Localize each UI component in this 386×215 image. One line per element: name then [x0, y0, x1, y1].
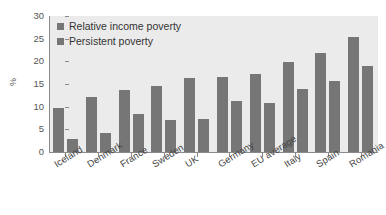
y-axis-tick-label: 0	[20, 147, 44, 157]
bar-iceland-series-0	[53, 108, 64, 152]
bar-romania-series-1	[362, 66, 373, 152]
bar-group	[345, 16, 378, 152]
bar-chart-figure: % 051015202530 IcelandDenmarkFranceSwede…	[0, 0, 386, 215]
bar-spain-series-0	[315, 53, 326, 152]
legend-item: Persistent poverty	[57, 34, 181, 48]
bar-group	[214, 16, 247, 152]
y-axis-tick-labels: 051015202530	[20, 10, 44, 158]
bar-group	[280, 16, 313, 152]
bar-spain-series-1	[329, 81, 340, 152]
y-axis-tick-label: 5	[20, 124, 44, 134]
y-axis-tick-label: 30	[20, 11, 44, 21]
bar-germany-series-0	[217, 77, 228, 152]
chart-legend: Relative income povertyPersistent povert…	[57, 19, 181, 49]
bar-denmark-series-0	[86, 97, 97, 152]
bar-group	[181, 16, 214, 152]
bar-uk-series-0	[184, 78, 195, 152]
x-axis-label-uk: UK	[183, 153, 200, 169]
bar-romania-series-0	[348, 37, 359, 152]
y-axis-title: %	[8, 75, 18, 89]
legend-item: Relative income poverty	[57, 19, 181, 33]
bar-group	[312, 16, 345, 152]
x-axis-label-italy: Italy	[282, 150, 303, 169]
y-axis-tick-label: 25	[20, 34, 44, 44]
bar-italy-series-1	[297, 89, 308, 152]
bar-uk-series-1	[198, 119, 209, 152]
square-swatch-icon	[57, 23, 64, 30]
bar-group	[247, 16, 280, 152]
square-swatch-icon	[57, 38, 64, 45]
legend-label: Persistent poverty	[69, 35, 153, 47]
bar-sweden-series-0	[151, 86, 162, 152]
y-axis-tick-label: 20	[20, 56, 44, 66]
legend-label: Relative income poverty	[69, 20, 181, 32]
y-axis-tick-label: 15	[20, 79, 44, 89]
y-axis-tick-label: 10	[20, 102, 44, 112]
